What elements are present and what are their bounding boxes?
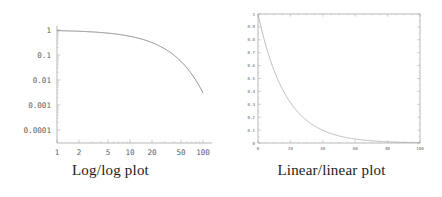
data-curve [258, 14, 420, 143]
data-curve [57, 31, 203, 93]
x-tick-label: 20 [147, 148, 157, 157]
y-tick-label: 0.5 [248, 76, 256, 81]
y-tick-label: 0.9 [248, 24, 256, 29]
x-tick-label: 40 [320, 146, 325, 151]
x-tick-label: 60 [353, 146, 358, 151]
x-tick-label: 50 [176, 148, 186, 157]
y-tick-label: 0.8 [248, 37, 256, 42]
x-tick-label: 100 [416, 146, 424, 151]
x-tick-label: 1 [55, 148, 60, 157]
panel-linear-linear: 00.10.20.30.40.50.60.70.80.91 0204060801… [221, 0, 442, 197]
y-tick-label: 0.01 [33, 76, 52, 85]
y-tick-label: 0.3 [248, 102, 256, 107]
y-tick-label: 0.1 [37, 51, 51, 60]
log-log-plot: 10.10.010.0010.0001 125102050100 [0, 0, 221, 160]
x-tick-label: 80 [385, 146, 390, 151]
y-tick-label: 0.2 [248, 115, 256, 120]
panel-log-log: 10.10.010.0010.0001 125102050100 Log/log… [0, 0, 221, 197]
y-tick-label: 0.4 [248, 89, 256, 94]
x-tick-label: 5 [106, 148, 111, 157]
x-tick-label: 0 [257, 146, 260, 151]
y-tick-label: 0.001 [28, 101, 51, 110]
plot-frame [258, 14, 420, 143]
caption-log-log: Log/log plot [0, 162, 221, 179]
y-tick-label: 1 [253, 12, 256, 17]
linear-linear-plot: 00.10.20.30.40.50.60.70.80.91 0204060801… [221, 0, 442, 160]
y-tick-label: 0.0001 [24, 126, 52, 135]
y-tick-label: 0 [253, 141, 256, 146]
y-tick-label: 0.6 [248, 63, 256, 68]
y-tick-label: 0.7 [248, 50, 256, 55]
two-panel-figure: 10.10.010.0010.0001 125102050100 Log/log… [0, 0, 442, 197]
x-tick-label: 2 [77, 148, 82, 157]
y-tick-label: 1 [46, 26, 51, 35]
x-tick-label: 20 [288, 146, 293, 151]
caption-linear-linear: Linear/linear plot [221, 162, 442, 179]
y-tick-label: 0.1 [248, 128, 256, 133]
x-tick-label: 10 [125, 148, 135, 157]
x-tick-label: 100 [196, 148, 210, 157]
